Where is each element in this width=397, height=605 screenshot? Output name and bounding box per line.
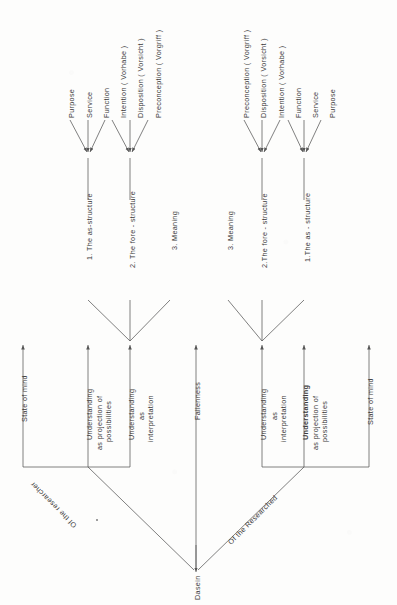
right-meaning-label: 3. Meaning <box>226 211 235 250</box>
left-as-structure-label: 1. The as-structure <box>85 193 94 260</box>
right-as-item-label-3: Purpose <box>328 89 337 118</box>
left-as-item-3 <box>90 120 105 152</box>
left-fan-as-structure <box>88 300 130 341</box>
right-fore-structure-label: 2.The fore - structure <box>260 193 269 268</box>
left-understanding-interpretation-line3: interpretation <box>146 395 155 442</box>
left-understanding-projection-line3: possibilities <box>104 401 113 442</box>
left-state-of-mind-label: State of mind <box>20 375 29 422</box>
left-fore-item-1 <box>112 120 129 152</box>
left-meaning-label: 3. Meaning <box>170 211 179 250</box>
left-understanding-projection-line2: as projection of <box>95 396 104 450</box>
left-understanding-projection-line1: Understanding <box>85 389 94 440</box>
right-understanding-interpretation-line2: as <box>270 412 279 420</box>
left-fore-item-3 <box>132 120 148 152</box>
right-understanding-projection-line2: as projection of <box>311 396 320 450</box>
left-fore-structure-label: 2. The fore - structure <box>128 191 137 268</box>
fallenness-label: Fallenness <box>193 382 202 420</box>
right-understanding-projection-line1: Understanding <box>301 385 310 440</box>
right-understanding-interpretation-line3: interpretation <box>279 395 288 442</box>
right-state-of-mind-label: State of mind <box>366 378 375 425</box>
right-fore-item-label-1: Preconception ( Vorgriff ) <box>242 30 251 118</box>
left-fore-item-label-3: Preconception ( Vorgriff ) <box>154 30 163 118</box>
right-fan-meaning <box>228 300 262 341</box>
right-understanding-interpretation-line1: Understanding <box>259 389 268 440</box>
stray-mark <box>96 519 98 521</box>
right-as-item-label-1: Function <box>294 88 303 118</box>
right-fan-as-structure <box>262 300 304 341</box>
right-as-item-label-2: Service <box>311 92 320 118</box>
left-fan-meaning <box>130 300 170 341</box>
left-as-item-1 <box>70 120 87 152</box>
right-fore-item-label-3: Intention ( Vorhabe ) <box>277 46 286 118</box>
left-as-item-label-3: Function <box>102 88 111 118</box>
left-understanding-interpretation-line2: as <box>137 412 146 420</box>
right-understanding-projection-line3: possibilities <box>320 401 329 442</box>
branch-left-researcher <box>88 467 194 570</box>
right-as-item-3 <box>306 120 321 152</box>
dasein-root-label: Dasein <box>193 576 202 600</box>
right-fore-item-3 <box>264 120 280 152</box>
right-fore-item-1 <box>244 120 261 152</box>
right-as-item-1 <box>288 120 303 152</box>
left-understanding-interpretation-line1: Understanding <box>127 389 136 440</box>
left-fore-item-label-2: Disposition ( Vorsicht ) <box>136 38 145 118</box>
right-fore-item-label-2: Disposition ( Vorsicht ) <box>259 38 268 118</box>
right-as-structure-label: 1.The as - structure <box>303 193 312 262</box>
diagram-canvas: Purpose Service Function Intention ( Vor… <box>0 0 397 605</box>
left-as-item-label-2: Service <box>85 92 94 118</box>
left-as-item-label-1: Purpose <box>67 89 76 118</box>
left-fore-item-label-1: Intention ( Vorhabe ) <box>119 46 128 118</box>
